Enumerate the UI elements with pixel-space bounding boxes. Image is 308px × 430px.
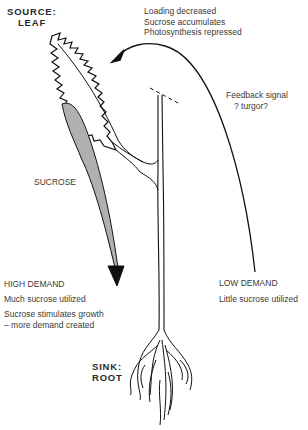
sucrose-label: SUCROSE [34,177,76,188]
low-demand-block: LOW DEMAND Little sucrose utilized [219,278,298,304]
feedback-arrow [118,44,255,272]
leaf-midrib [58,44,143,162]
stem-cut-dashed [150,88,180,104]
feedback-signal-label: Feedback signal ? turgor? [226,90,288,111]
high-demand-title: HIGH DEMAND [4,279,104,290]
sink-label: SINK: ROOT [92,361,123,383]
stem [158,95,159,330]
plant-diagram-art [0,0,308,430]
roots [130,330,192,425]
source-label: SOURCE: LEAF [7,6,56,28]
leaf-notes: Loading decreased Sucrose accumulates Ph… [144,6,242,38]
high-demand-block: HIGH DEMAND Much sucrose utilized Sucros… [4,279,104,330]
low-demand-title: LOW DEMAND [219,278,298,289]
